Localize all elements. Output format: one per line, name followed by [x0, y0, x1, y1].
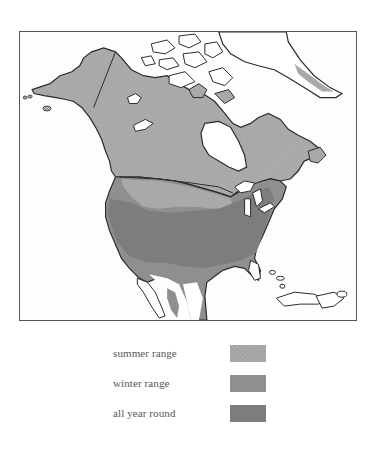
florida-summer-tip — [249, 260, 261, 280]
aleutian-islands — [23, 95, 51, 111]
caribbean-islands — [269, 270, 346, 308]
all-year-round-swatch — [230, 405, 266, 422]
range-map — [19, 31, 357, 321]
winter-range-swatch — [230, 375, 266, 392]
summer-range-swatch — [230, 345, 266, 362]
legend-label: summer range — [113, 347, 177, 359]
legend-item-all-year-round: all year round — [0, 405, 374, 425]
legend-item-winter-range: winter range — [0, 375, 374, 395]
legend-item-summer-range: summer range — [0, 345, 374, 365]
north-america-map — [20, 32, 356, 320]
legend-label: winter range — [113, 377, 169, 389]
legend-label: all year round — [113, 407, 176, 419]
